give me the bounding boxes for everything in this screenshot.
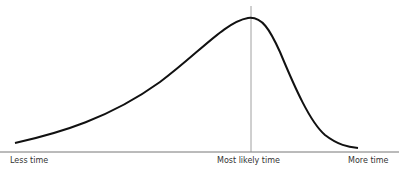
distribution-curve — [15, 18, 358, 148]
label-less-time: Less time — [10, 156, 48, 165]
diagram-canvas — [0, 0, 399, 172]
label-more-time: More time — [348, 156, 388, 165]
diagram: Less time Most likely time More time — [0, 0, 399, 172]
label-most-likely-time: Most likely time — [217, 156, 280, 165]
